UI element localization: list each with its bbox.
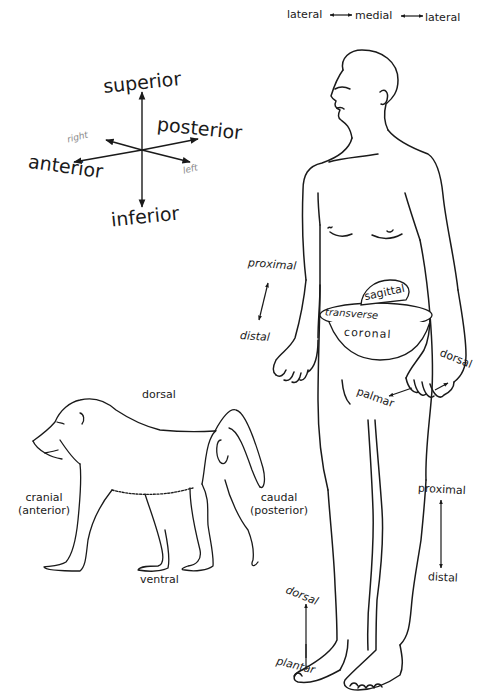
baboon-dorsal-label: dorsal bbox=[142, 389, 176, 400]
leg-proximal-label: proximal bbox=[418, 483, 466, 496]
baboon-caudal-label: caudal (posterior) bbox=[244, 492, 314, 516]
arm-proximal-label: proximal bbox=[248, 257, 297, 271]
cranial-alt-text: (anterior) bbox=[14, 505, 74, 516]
lateral-right-label: lateral bbox=[425, 12, 460, 23]
caudal-text: caudal bbox=[244, 492, 314, 503]
medial-label: medial bbox=[355, 10, 392, 21]
baboon-figure bbox=[33, 399, 264, 571]
cranial-text: cranial bbox=[14, 492, 74, 503]
direction-compass bbox=[74, 92, 198, 207]
lateral-left-label: lateral bbox=[287, 9, 322, 20]
arm-distal-label: distal bbox=[240, 330, 271, 343]
baboon-ventral-label: ventral bbox=[140, 574, 179, 585]
arm-proximal-distal-arrow bbox=[259, 283, 268, 320]
caudal-alt-text: (posterior) bbox=[244, 505, 314, 516]
diagram-artwork bbox=[0, 0, 497, 694]
leg-distal-label: distal bbox=[428, 571, 458, 584]
hand-dorsal-arrow bbox=[435, 383, 448, 390]
coronal-label: coronal bbox=[344, 327, 392, 340]
hand-palmar-arrow bbox=[389, 388, 412, 396]
baboon-cranial-label: cranial (anterior) bbox=[14, 492, 74, 516]
